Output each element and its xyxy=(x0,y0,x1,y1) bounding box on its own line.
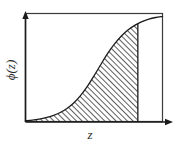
x-axis-arrow-icon xyxy=(165,119,173,125)
shaded-area-under-curve xyxy=(26,24,138,122)
figure-container: ϕ(z) z xyxy=(0,0,181,145)
y-axis-arrow-icon xyxy=(22,11,28,19)
x-axis-label: z xyxy=(86,127,92,142)
cdf-plot-figure: ϕ(z) z xyxy=(0,0,181,145)
y-axis-label: ϕ(z) xyxy=(3,60,18,80)
